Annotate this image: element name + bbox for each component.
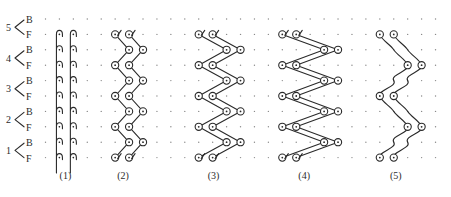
- needle-dot: [407, 18, 408, 19]
- needle-dot: [184, 111, 185, 112]
- needle-dot: [73, 64, 75, 66]
- needle-dot: [101, 157, 102, 158]
- needle-dot: [421, 157, 422, 158]
- needle-dot: [309, 142, 310, 143]
- needle-dot: [170, 80, 171, 81]
- needle-dot: [170, 49, 171, 50]
- needle-dot: [365, 18, 366, 19]
- needle-dot: [254, 157, 255, 158]
- needle-grid: [45, 18, 436, 158]
- needle-dot: [212, 64, 214, 66]
- back-bed-label: B: [26, 137, 33, 148]
- back-bed-label: B: [26, 14, 33, 25]
- needle-dot: [45, 142, 46, 143]
- needle-dot: [101, 34, 102, 35]
- needle-dot: [226, 18, 227, 19]
- needle-dot: [114, 157, 116, 159]
- needle-dot: [226, 65, 227, 66]
- needle-dot: [59, 80, 61, 82]
- needle-dot: [365, 111, 366, 112]
- needle-dot: [142, 141, 144, 143]
- needle-dot: [240, 80, 242, 82]
- needle-dot: [393, 95, 395, 97]
- needle-dot: [226, 141, 228, 143]
- front-bed-label: F: [26, 153, 32, 164]
- needle-dot: [268, 126, 269, 127]
- needle-dot: [87, 111, 88, 112]
- needle-dot: [128, 18, 129, 19]
- needle-dot: [59, 126, 61, 128]
- needle-dot: [254, 80, 255, 81]
- needle-dot: [323, 126, 324, 127]
- needle-dot: [170, 34, 171, 35]
- needle-dot: [73, 126, 75, 128]
- needle-dot: [435, 142, 436, 143]
- needle-dot: [87, 18, 88, 19]
- needle-dot: [309, 80, 310, 81]
- needle-dot: [268, 142, 269, 143]
- front-bed-label: F: [26, 122, 32, 133]
- needle-dot: [101, 95, 102, 96]
- needle-dot: [268, 49, 269, 50]
- needle-dot: [87, 65, 88, 66]
- needle-dot: [282, 49, 283, 50]
- needle-dot: [268, 65, 269, 66]
- needle-dot: [114, 95, 116, 97]
- needle-dot: [114, 64, 116, 66]
- needle-dot: [212, 80, 213, 81]
- needle-dot: [323, 49, 325, 51]
- needle-dot: [351, 65, 352, 66]
- needle-dot: [240, 18, 241, 19]
- needle-dot: [59, 64, 61, 66]
- bracket-icon: [15, 51, 24, 65]
- needle-dot: [337, 141, 339, 143]
- needle-dot: [240, 65, 241, 66]
- needle-dot: [365, 142, 366, 143]
- needle-dot: [198, 64, 200, 66]
- needle-dot: [45, 49, 46, 50]
- needle-dot: [407, 64, 409, 66]
- needle-dot: [309, 111, 310, 112]
- needle-dot: [142, 157, 143, 158]
- needle-dot: [59, 111, 61, 113]
- needle-dot: [435, 126, 436, 127]
- needle-dot: [184, 126, 185, 127]
- needle-dot: [421, 142, 422, 143]
- needle-dot: [435, 95, 436, 96]
- needle-dot: [101, 18, 102, 19]
- needle-dot: [45, 80, 46, 81]
- needle-dot: [101, 142, 102, 143]
- needle-dot: [296, 49, 297, 50]
- needle-dot: [254, 49, 255, 50]
- needle-dot: [170, 157, 171, 158]
- needle-dot: [198, 126, 200, 128]
- needle-dot: [142, 65, 143, 66]
- needle-dot: [59, 141, 61, 143]
- needle-dot: [323, 111, 325, 113]
- needle-dot: [281, 157, 283, 159]
- needle-dot: [421, 18, 422, 19]
- needle-dot: [87, 95, 88, 96]
- needle-dot: [114, 49, 115, 50]
- needle-dot: [351, 157, 352, 158]
- needle-dot: [128, 49, 130, 51]
- needle-dot: [295, 157, 297, 159]
- needle-dot: [240, 95, 241, 96]
- panel-label: (4): [298, 170, 310, 182]
- needle-dot: [379, 18, 380, 19]
- needle-dot: [295, 64, 297, 66]
- needle-dot: [156, 49, 157, 50]
- row-number: 3: [6, 83, 11, 94]
- needle-dot: [156, 157, 157, 158]
- needle-dot: [128, 141, 130, 143]
- needle-dot: [296, 18, 297, 19]
- needle-dot: [240, 111, 242, 113]
- needle-dot: [142, 49, 144, 51]
- needle-dot: [226, 49, 228, 51]
- needle-dot: [337, 80, 339, 82]
- needle-dot: [240, 126, 241, 127]
- needle-dot: [268, 80, 269, 81]
- needle-dot: [421, 49, 422, 50]
- needle-dot: [365, 80, 366, 81]
- needle-dot: [114, 142, 115, 143]
